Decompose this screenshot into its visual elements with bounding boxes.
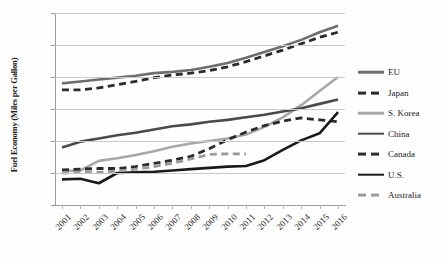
x-tick-mark — [338, 205, 339, 209]
gridline — [55, 13, 345, 14]
x-tick-mark — [99, 205, 100, 209]
x-tick-mark — [320, 205, 321, 209]
legend-item-australia[interactable]: Australia — [358, 185, 444, 206]
x-tick-mark — [80, 205, 81, 209]
legend-swatch-china — [358, 129, 384, 139]
chart-legend: EUJapanS. KoreaChinaCanadaU.S.Australia — [358, 62, 444, 206]
y-tick-mark — [51, 173, 55, 174]
legend-item-eu[interactable]: EU — [358, 62, 444, 83]
series-line-eu — [62, 26, 338, 84]
legend-label-s-korea: S. Korea — [388, 108, 420, 118]
legend-swatch-australia — [358, 190, 384, 200]
gridline — [55, 109, 345, 110]
legend-label-australia: Australia — [388, 190, 421, 200]
legend-label-canada: Canada — [388, 149, 415, 159]
legend-label-eu: EU — [388, 67, 400, 77]
legend-label-u-s: U.S. — [388, 170, 404, 180]
chart-figure: Fuel Economy (Miles per Gallon) 20253035… — [0, 0, 445, 263]
x-tick-mark — [62, 205, 63, 209]
gridline — [55, 77, 345, 78]
x-tick-mark — [136, 205, 137, 209]
legend-label-china: China — [388, 129, 410, 139]
y-tick-mark — [51, 77, 55, 78]
legend-label-japan: Japan — [388, 88, 409, 98]
y-tick-mark — [51, 45, 55, 46]
x-tick-mark — [301, 205, 302, 209]
legend-item-u-s[interactable]: U.S. — [358, 165, 444, 186]
legend-swatch-canada — [358, 149, 384, 159]
legend-swatch-japan — [358, 88, 384, 98]
gridline — [55, 141, 345, 142]
y-tick-mark — [51, 141, 55, 142]
legend-item-japan[interactable]: Japan — [358, 83, 444, 104]
y-axis-title: Fuel Economy (Miles per Gallon) — [9, 30, 19, 200]
y-tick-mark — [51, 109, 55, 110]
gridline — [55, 45, 345, 46]
y-tick-mark — [51, 205, 55, 206]
legend-swatch-eu — [358, 67, 384, 77]
x-tick-mark — [117, 205, 118, 209]
gridline — [55, 173, 345, 174]
x-tick-mark — [191, 205, 192, 209]
x-tick-mark — [154, 205, 155, 209]
x-tick-mark — [246, 205, 247, 209]
plot-area: 2025303540455020012002200320042005200620… — [55, 13, 345, 205]
legend-swatch-s-korea — [358, 108, 384, 118]
x-tick-mark — [172, 205, 173, 209]
y-tick-mark — [51, 13, 55, 14]
legend-item-canada[interactable]: Canada — [358, 144, 444, 165]
legend-item-china[interactable]: China — [358, 124, 444, 145]
x-tick-mark — [209, 205, 210, 209]
figure-caption — [0, 256, 445, 263]
x-tick-mark — [283, 205, 284, 209]
legend-item-s-korea[interactable]: S. Korea — [358, 103, 444, 124]
legend-swatch-u-s — [358, 170, 384, 180]
x-tick-mark — [228, 205, 229, 209]
x-tick-mark — [264, 205, 265, 209]
